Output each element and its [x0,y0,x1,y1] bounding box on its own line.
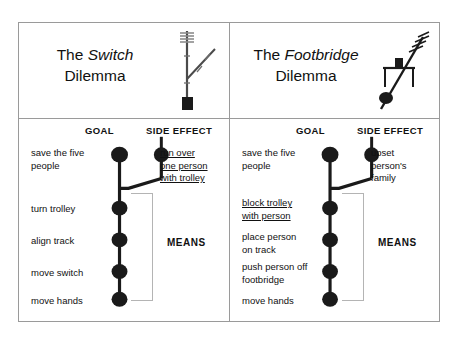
panel-header-footbridge: The Footbridge Dilemma [230,23,439,119]
label-line: block trolley [242,197,292,210]
label-line: place person [242,231,296,244]
label-line: family [371,172,407,185]
label-line: push person off [242,261,307,274]
label-means-4: move hands [242,295,294,308]
label-line: move hands [31,295,83,308]
label-line: run over [160,147,208,160]
title-emphasis: Footbridge [284,46,358,63]
label-means-2: align track [31,235,74,248]
footbridge-trolley-icon [371,25,433,117]
label-line: move switch [31,267,83,280]
panel-title-footbridge: The Footbridge Dilemma [236,45,376,87]
dilemma-figure: The Switch Dilemma [18,22,440,322]
label-means-2: place person on track [242,231,296,256]
label-line: people [242,160,295,173]
column-heading-goal: GOAL [85,125,114,136]
label-means-3: move switch [31,267,83,280]
label-line: one person [160,160,208,173]
label-goal: save the five people [31,147,84,172]
label-line: on track [242,244,296,257]
label-line: with person [242,210,292,223]
means-bracket [342,193,364,301]
label-line: move hands [242,295,294,308]
label-means-1: block trolley with person [242,197,292,222]
label-goal: save the five people [242,147,295,172]
column-heading-side-effect: SIDE EFFECT [357,125,423,136]
title-prefix: The [57,46,88,63]
railway-switch-icon [161,25,223,117]
label-side-effect: upset person's family [371,147,407,185]
label-line: save the five [31,147,84,160]
title-emphasis: Switch [88,46,134,63]
label-line: upset [371,147,407,160]
label-line: people [31,160,84,173]
label-line: turn trolley [31,203,75,216]
panel-body-footbridge: GOAL SIDE EFFECT MEANS save the five peo… [230,119,439,321]
label-means-3: push person off footbridge [242,261,307,286]
panel-body-switch: GOAL SIDE EFFECT MEANS [19,119,229,321]
label-side-effect: run over one person with trolley [160,147,208,185]
label-line: footbridge [242,274,307,287]
means-label: MEANS [378,237,417,248]
means-bracket [131,193,153,301]
column-heading-goal: GOAL [296,125,325,136]
label-line: person's [371,160,407,173]
label-line: save the five [242,147,295,160]
panel-switch-dilemma: The Switch Dilemma [19,23,229,321]
title-suffix: Dilemma [64,67,125,84]
panel-header-switch: The Switch Dilemma [19,23,229,119]
label-line: align track [31,235,74,248]
label-line: with trolley [160,172,208,185]
label-means-1: turn trolley [31,203,75,216]
label-means-4: move hands [31,295,83,308]
title-prefix: The [253,46,284,63]
panel-footbridge-dilemma: The Footbridge Dilemma [229,23,439,321]
means-label: MEANS [167,237,206,248]
title-suffix: Dilemma [275,67,336,84]
panel-title-switch: The Switch Dilemma [25,45,165,87]
column-heading-side-effect: SIDE EFFECT [146,125,212,136]
